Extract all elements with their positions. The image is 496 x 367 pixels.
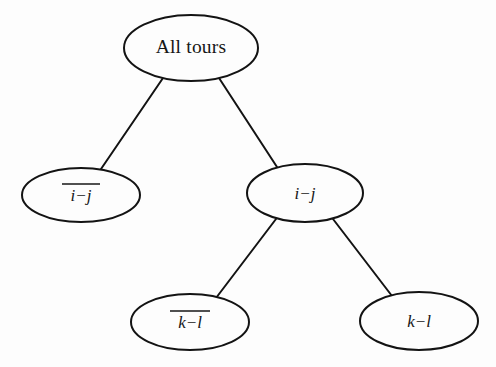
tree-node-not-kl[interactable]: k−l: [131, 294, 249, 350]
tree-canvas: All tours i−j i−j k−l k−l: [0, 0, 496, 367]
edge-ij-to-not-kl: [216, 219, 276, 298]
node-label-ij: i−j: [295, 184, 316, 203]
branch-and-bound-tree-diagram: All tours i−j i−j k−l k−l: [0, 0, 496, 367]
tree-node-root[interactable]: All tours: [124, 15, 258, 81]
edge-root-to-ij: [219, 78, 277, 167]
tree-node-kl[interactable]: k−l: [360, 292, 478, 350]
node-label-not-kl: k−l: [178, 313, 202, 332]
edge-root-to-not-ij: [101, 78, 163, 169]
node-label-kl: k−l: [407, 312, 431, 331]
node-label-root: All tours: [156, 36, 227, 57]
tree-node-not-ij[interactable]: i−j: [22, 168, 140, 222]
edge-ij-to-kl: [333, 219, 392, 296]
node-label-not-ij: i−j: [71, 186, 92, 205]
tree-node-ij[interactable]: i−j: [247, 164, 363, 222]
